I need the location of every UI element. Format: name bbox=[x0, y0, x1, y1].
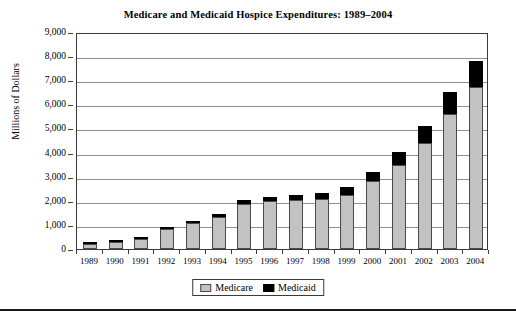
x-axis-tick-label: 2004 bbox=[459, 256, 491, 266]
y-axis-tick-mark bbox=[68, 178, 73, 179]
bar-segment-medicare[interactable] bbox=[289, 200, 303, 249]
legend-entry[interactable]: Medicare bbox=[200, 282, 253, 293]
bar-segment-medicare[interactable] bbox=[83, 244, 97, 249]
x-axis-tick-mark bbox=[153, 250, 154, 254]
y-axis-tick-label: 2,000 bbox=[2, 197, 66, 207]
x-axis-tick-mark bbox=[359, 250, 360, 254]
bar-segment-medicaid[interactable] bbox=[289, 195, 303, 199]
y-axis-tick-label: 4,000 bbox=[2, 149, 66, 159]
bar-segment-medicare[interactable] bbox=[160, 229, 174, 249]
x-axis-tick-mark bbox=[334, 250, 335, 254]
legend-label: Medicare bbox=[215, 282, 253, 293]
x-axis-tick-mark bbox=[76, 250, 77, 254]
x-axis-tick-mark bbox=[231, 250, 232, 254]
y-axis-tick-label: 9,000 bbox=[2, 28, 66, 38]
bar-segment-medicare[interactable] bbox=[340, 195, 354, 249]
y-axis-tick-label: 5,000 bbox=[2, 124, 66, 134]
bar-segment-medicare[interactable] bbox=[237, 204, 251, 249]
bar-segment-medicaid[interactable] bbox=[263, 197, 277, 201]
y-axis-tick-labels: 9,0008,0007,0006,0005,0004,0003,0002,000… bbox=[0, 33, 72, 250]
bar-segment-medicaid[interactable] bbox=[109, 240, 123, 242]
y-axis-tick-mark bbox=[68, 129, 73, 130]
x-axis-tick-mark bbox=[128, 250, 129, 254]
x-axis-tick-mark bbox=[256, 250, 257, 254]
bar-segment-medicaid[interactable] bbox=[392, 152, 406, 166]
bar-segment-medicare[interactable] bbox=[315, 199, 329, 249]
bar-segment-medicare[interactable] bbox=[134, 239, 148, 249]
chart-legend: MedicareMedicaid bbox=[192, 279, 324, 296]
x-axis-tick-mark bbox=[437, 250, 438, 254]
y-axis-tick-mark bbox=[68, 105, 73, 106]
y-axis-tick-mark bbox=[68, 57, 73, 58]
bar-segment-medicare[interactable] bbox=[418, 143, 432, 249]
bar-segment-medicaid[interactable] bbox=[340, 187, 354, 195]
x-axis-tick-mark bbox=[385, 250, 386, 254]
x-axis-tick-mark bbox=[205, 250, 206, 254]
legend-swatch-icon bbox=[263, 284, 274, 292]
x-axis-tick-mark bbox=[102, 250, 103, 254]
bar-segment-medicare[interactable] bbox=[186, 223, 200, 249]
bottom-rule-divider bbox=[0, 309, 516, 311]
bar-segment-medicaid[interactable] bbox=[212, 214, 226, 217]
plot-area bbox=[76, 33, 488, 250]
bar-segment-medicare[interactable] bbox=[392, 165, 406, 249]
legend-entry[interactable]: Medicaid bbox=[263, 282, 316, 293]
y-axis-tick-label: 1,000 bbox=[2, 221, 66, 231]
y-axis-tick-mark bbox=[68, 33, 73, 34]
chart-title: Medicare and Medicaid Hospice Expenditur… bbox=[0, 9, 516, 20]
y-axis-tick-mark bbox=[68, 202, 73, 203]
bar-segment-medicaid[interactable] bbox=[160, 227, 174, 229]
y-axis-tick-label: 3,000 bbox=[2, 173, 66, 183]
bar-segment-medicare[interactable] bbox=[212, 217, 226, 249]
bar-segment-medicaid[interactable] bbox=[443, 92, 457, 114]
bar-segment-medicaid[interactable] bbox=[83, 242, 97, 244]
x-axis-tick-mark bbox=[308, 250, 309, 254]
bar-segment-medicare[interactable] bbox=[366, 181, 380, 249]
x-axis-tick-mark bbox=[488, 250, 489, 254]
bars-layer bbox=[77, 34, 487, 249]
y-axis-tick-mark bbox=[68, 81, 73, 82]
bar-segment-medicaid[interactable] bbox=[237, 200, 251, 204]
bar-segment-medicare[interactable] bbox=[443, 114, 457, 249]
bar-segment-medicare[interactable] bbox=[109, 242, 123, 249]
bar-segment-medicaid[interactable] bbox=[134, 237, 148, 239]
bar-segment-medicare[interactable] bbox=[469, 87, 483, 249]
legend-swatch-icon bbox=[200, 284, 211, 292]
bar-segment-medicaid[interactable] bbox=[469, 61, 483, 88]
y-axis-tick-mark bbox=[68, 226, 73, 227]
y-axis-tick-label: 8,000 bbox=[2, 52, 66, 62]
x-axis-tick-mark bbox=[282, 250, 283, 254]
bar-segment-medicaid[interactable] bbox=[418, 126, 432, 143]
bar-segment-medicaid[interactable] bbox=[315, 193, 329, 199]
x-axis-tick-mark bbox=[411, 250, 412, 254]
y-axis-tick-label: 6,000 bbox=[2, 100, 66, 110]
y-axis-tick-mark bbox=[68, 154, 73, 155]
x-axis-tick-mark bbox=[179, 250, 180, 254]
y-axis-tick-mark bbox=[68, 250, 73, 251]
y-axis-tick-label: 0 bbox=[2, 245, 66, 255]
chart-figure: Medicare and Medicaid Hospice Expenditur… bbox=[0, 0, 516, 314]
y-axis-tick-label: 7,000 bbox=[2, 76, 66, 86]
bar-segment-medicaid[interactable] bbox=[186, 221, 200, 223]
legend-label: Medicaid bbox=[278, 282, 316, 293]
bar-segment-medicaid[interactable] bbox=[366, 172, 380, 181]
x-axis-tick-mark bbox=[462, 250, 463, 254]
bar-segment-medicare[interactable] bbox=[263, 201, 277, 249]
